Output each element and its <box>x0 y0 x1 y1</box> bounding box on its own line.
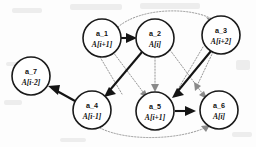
node-a2[interactable]: a_2 A[i] <box>136 19 174 57</box>
diagram-canvas: a_1 A[i+1] a_2 A[i] a_3 A[i+2] a_7 A[i-2… <box>0 0 256 147</box>
node-a5-id: a_5 <box>149 102 161 111</box>
edge-a2-a5 <box>151 57 159 92</box>
node-a4-id: a_4 <box>86 101 98 110</box>
edge-a4-a7 <box>48 85 75 101</box>
node-a1-expr: A[i+1] <box>91 40 113 49</box>
node-a7-id: a_7 <box>25 67 37 76</box>
node-a2-id: a_2 <box>149 29 161 38</box>
node-a5[interactable]: a_5 A[i+1] <box>136 92 174 130</box>
edge-a1-a2 <box>121 33 137 43</box>
edge-a3-a5 <box>172 51 211 98</box>
edge-a1-a5 <box>113 52 148 98</box>
edge-a2-a4 <box>104 52 142 97</box>
node-a6-id: a_6 <box>213 101 225 110</box>
node-a3-id: a_3 <box>215 26 227 35</box>
dependence-graph: a_1 A[i+1] a_2 A[i] a_3 A[i+2] a_7 A[i-2… <box>0 0 256 147</box>
node-a2-expr: A[i] <box>148 40 162 49</box>
node-a7[interactable]: a_7 A[i-2] <box>12 57 50 95</box>
node-a6[interactable]: a_6 A[i] <box>200 91 238 129</box>
node-a6-expr: A[i] <box>212 112 226 121</box>
node-a1[interactable]: a_1 A[i+1] <box>83 19 121 57</box>
node-a5-expr: A[i+1] <box>144 113 166 122</box>
node-a7-expr: A[i-2] <box>21 78 41 87</box>
node-a4-expr: A[i-1] <box>82 112 102 121</box>
node-a4[interactable]: a_4 A[i-1] <box>73 91 111 129</box>
node-a3[interactable]: a_3 A[i+2] <box>202 16 240 54</box>
node-a1-id: a_1 <box>96 29 108 38</box>
node-a3-expr: A[i+2] <box>210 37 232 46</box>
edge-a5-a6 <box>175 106 196 116</box>
